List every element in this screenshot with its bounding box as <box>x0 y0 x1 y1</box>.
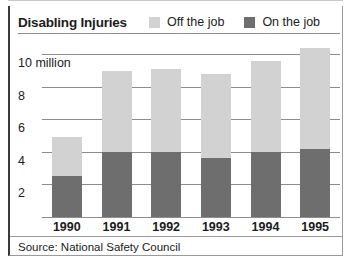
x-axis-label-1992: 1992 <box>141 220 191 234</box>
x-axis-label-1990: 1990 <box>42 220 92 234</box>
header-divider <box>18 33 340 34</box>
legend-label-on-the-job: On the job <box>262 15 320 29</box>
y-axis-label-6: 6 <box>18 122 25 135</box>
bar-segment-on-the-job-1992[interactable] <box>151 152 181 217</box>
bar-group-1992[interactable] <box>151 69 181 217</box>
chart-figure: Disabling Injuries Off the job On the jo… <box>0 0 351 264</box>
frame-top-hairline <box>8 0 343 1</box>
bar-segment-off-the-job-1994[interactable] <box>251 61 281 152</box>
bar-group-1991[interactable] <box>102 71 132 217</box>
y-axis-label-2: 2 <box>18 187 25 200</box>
bar-segment-off-the-job-1991[interactable] <box>102 71 132 152</box>
source-note: Source: National Safety Council <box>18 241 180 253</box>
footer-divider <box>10 236 342 237</box>
chart-title: Disabling Injuries <box>18 15 127 30</box>
bar-group-1990[interactable] <box>52 137 82 217</box>
legend-label-off-the-job: Off the job <box>167 15 224 29</box>
legend-swatch-icon-on-the-job <box>244 17 255 28</box>
legend-item-off-the-job: Off the job <box>149 15 224 29</box>
x-axis-label-1995: 1995 <box>290 220 340 234</box>
y-axis-label-4: 4 <box>18 155 25 168</box>
bar-segment-off-the-job-1993[interactable] <box>201 74 231 159</box>
y-axis-label-8: 8 <box>18 90 25 103</box>
x-axis-label-1993: 1993 <box>191 220 241 234</box>
chart-legend: Off the job On the job <box>149 15 320 29</box>
bar-series <box>42 38 340 218</box>
x-axis-baseline <box>42 217 340 218</box>
bar-segment-off-the-job-1990[interactable] <box>52 137 82 176</box>
bar-segment-on-the-job-1993[interactable] <box>201 158 231 217</box>
bar-group-1995[interactable] <box>300 48 330 217</box>
bar-segment-off-the-job-1995[interactable] <box>300 48 330 149</box>
x-axis-label-1991: 1991 <box>92 220 142 234</box>
chart-header: Disabling Injuries Off the job On the jo… <box>18 12 334 32</box>
bar-segment-on-the-job-1994[interactable] <box>251 152 281 217</box>
legend-item-on-the-job: On the job <box>244 15 320 29</box>
bar-segment-on-the-job-1995[interactable] <box>300 149 330 217</box>
bar-segment-on-the-job-1990[interactable] <box>52 176 82 217</box>
legend-swatch-icon-off-the-job <box>149 17 160 28</box>
bar-segment-off-the-job-1992[interactable] <box>151 69 181 152</box>
plot-area: 246810 million <box>18 38 340 218</box>
bar-group-1994[interactable] <box>251 61 281 217</box>
x-axis-label-1994: 1994 <box>241 220 291 234</box>
bar-group-1993[interactable] <box>201 74 231 217</box>
bar-segment-on-the-job-1991[interactable] <box>102 152 132 217</box>
